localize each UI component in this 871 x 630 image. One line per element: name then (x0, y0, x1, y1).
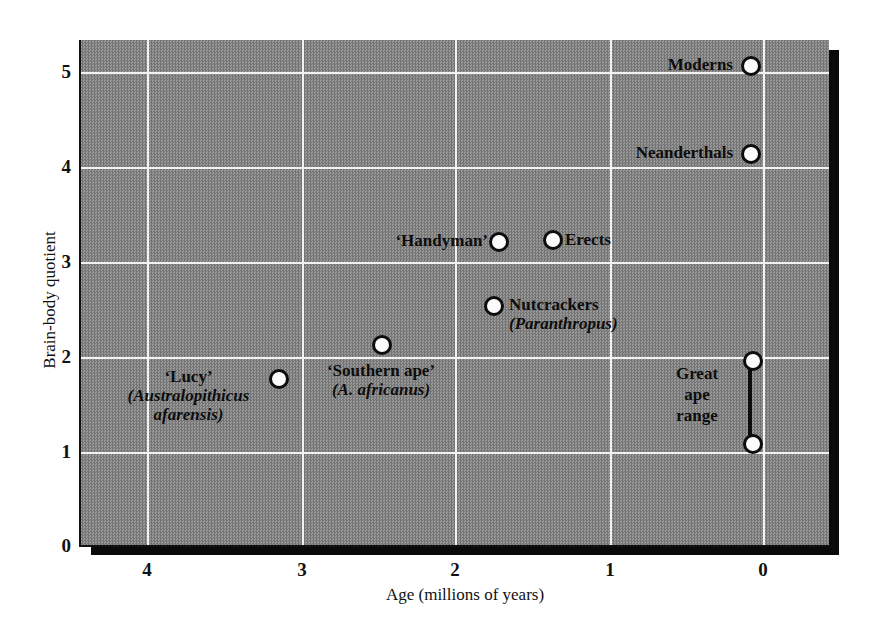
point-label-neanderthals: Neanderthals (501, 143, 733, 162)
great-ape-range-line-3: range (654, 405, 740, 426)
x-tick-label-3: 3 (282, 560, 322, 579)
y-tick-label-5: 5 (41, 62, 71, 81)
data-point-southern-ape[interactable] (372, 335, 392, 355)
point-label-handyman: ‘Handyman’ (306, 231, 488, 250)
data-point-great-ape-range-bottom[interactable] (743, 434, 763, 454)
y-tick-label-0: 0 (41, 536, 71, 555)
great-ape-range-line-2: ape (654, 384, 740, 405)
gridline-x-1 (610, 40, 612, 545)
point-label-nutcrackers-sci: (Paranthropus) (509, 314, 729, 333)
x-tick-label-0: 0 (743, 560, 783, 579)
data-point-nutcrackers[interactable] (484, 296, 504, 316)
x-tick-label-2: 2 (435, 560, 475, 579)
gridline-x-0 (763, 40, 765, 545)
annotation-great-ape-range: Great ape range (654, 363, 740, 426)
data-point-neanderthals[interactable] (741, 144, 761, 164)
y-axis-line (79, 40, 81, 547)
point-label-lucy: ‘Lucy’ (Australopithicus afarensis) (106, 367, 271, 424)
gridline-x-4 (147, 40, 149, 545)
point-label-southern-ape: ‘Southern ape’ (A. africanus) (300, 361, 462, 399)
point-label-southern-ape-sci: (A. africanus) (300, 380, 462, 399)
data-point-lucy[interactable] (269, 369, 289, 389)
point-label-southern-ape-name: ‘Southern ape’ (300, 361, 462, 380)
x-tick-label-4: 4 (127, 560, 167, 579)
data-point-moderns[interactable] (741, 56, 761, 76)
data-point-great-ape-range-top[interactable] (743, 351, 763, 371)
point-label-lucy-name: ‘Lucy’ (106, 367, 271, 386)
gridline-x-2 (455, 40, 457, 545)
point-label-nutcrackers: Nutcrackers (Paranthropus) (509, 295, 729, 333)
point-label-lucy-genus: (Australopithicus (106, 386, 271, 405)
data-point-erects[interactable] (543, 230, 563, 250)
scatter-chart-figure: ‘Lucy’ (Australopithicus afarensis) ‘Sou… (0, 0, 871, 630)
great-ape-range-line-1: Great (654, 363, 740, 384)
point-label-erects: Erects (565, 230, 705, 249)
data-point-handyman[interactable] (489, 232, 509, 252)
plot-area: ‘Lucy’ (Australopithicus afarensis) ‘Sou… (81, 40, 829, 545)
point-label-nutcrackers-name: Nutcrackers (509, 295, 729, 314)
gridline-x-3 (302, 40, 304, 545)
point-label-moderns: Moderns (521, 55, 733, 74)
x-axis-title: Age (millions of years) (315, 585, 615, 605)
y-tick-label-1: 1 (41, 442, 71, 461)
y-axis-title: Brain-body quotient (40, 170, 60, 430)
x-tick-label-1: 1 (590, 560, 630, 579)
x-axis-line (81, 545, 831, 547)
point-label-lucy-species: afarensis) (106, 405, 271, 424)
